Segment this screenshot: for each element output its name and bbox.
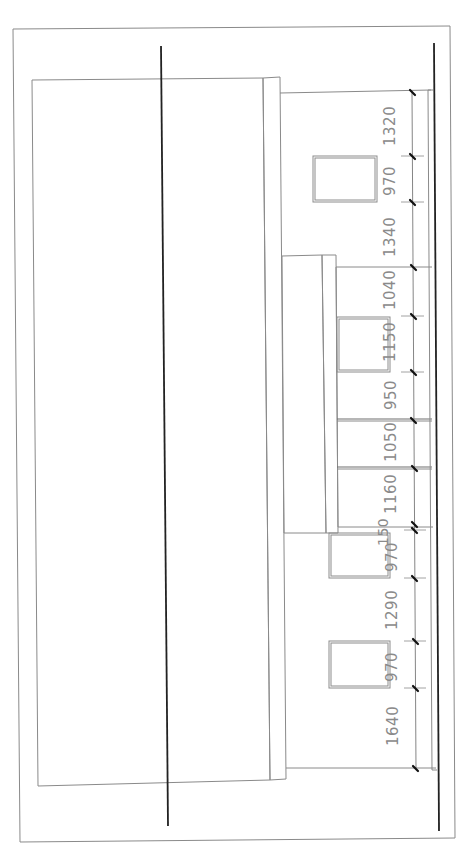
projecting-bay-cap	[322, 255, 338, 533]
dimension-label-1150: 1150	[383, 322, 398, 362]
window-4	[329, 641, 390, 688]
dimension-label-1040: 1040	[383, 270, 398, 310]
dimension-label-1160: 1160	[384, 474, 399, 514]
ground-line	[434, 43, 439, 831]
dimension-line	[412, 92, 416, 768]
window-1	[313, 156, 377, 202]
plinth-line	[428, 90, 432, 770]
projecting-bay-roof	[282, 255, 326, 533]
dimension-label-1290: 1290	[385, 590, 400, 630]
dimension-label-950: 950	[384, 380, 399, 410]
dimension-label-970-c: 970	[385, 652, 400, 682]
bay-face-line	[336, 267, 338, 527]
wall-top-edge	[280, 90, 431, 93]
dimension-label-1640: 1640	[386, 706, 401, 746]
roof-block	[32, 78, 270, 786]
section-line	[161, 46, 168, 826]
dimension-label-970-a: 970	[383, 166, 398, 196]
dimension-label-1050: 1050	[384, 422, 399, 462]
dimension-label-1340: 1340	[383, 217, 398, 257]
dimension-label-970-b: 970	[385, 542, 400, 572]
dimension-label-1320: 1320	[383, 106, 398, 146]
roof-eave-strip	[263, 77, 286, 780]
